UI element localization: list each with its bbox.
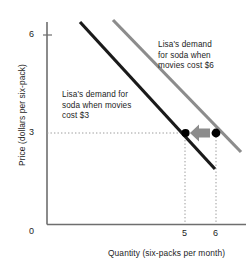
- x-tick-label-6: 6: [213, 228, 218, 238]
- x-tick-label-5: 5: [182, 228, 187, 238]
- marker-point-quantity-5: [181, 129, 189, 137]
- y-tick-label-origin: 0: [29, 226, 34, 236]
- annotation-gray-demand: Lisa's demand for soda when movies cost …: [158, 40, 244, 72]
- x-axis-title: Quantity (six-packs per month): [108, 248, 225, 258]
- marker-point-quantity-6: [212, 129, 221, 138]
- shift-arrow-icon: [190, 125, 210, 142]
- y-axis-title: Price (dollars per six-pack): [17, 50, 27, 180]
- chart-figure: Lisa's demand for soda when movies cost …: [0, 0, 246, 266]
- y-tick-label-3: 3: [29, 127, 34, 137]
- annotation-dark-demand: Lisa's demand for soda when movies cost …: [62, 90, 154, 122]
- y-tick-label-6: 6: [29, 29, 34, 39]
